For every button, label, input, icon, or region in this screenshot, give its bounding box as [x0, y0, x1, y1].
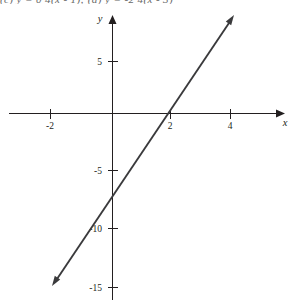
y-axis-arrowhead — [109, 15, 117, 24]
x-axis — [9, 110, 286, 118]
line-segment — [57, 23, 229, 279]
x-axis-label: x — [282, 117, 288, 128]
y-axis — [109, 15, 117, 300]
x-tick-label-4: 4 — [228, 121, 233, 131]
y-tick-label-minus15: -15 — [89, 283, 102, 293]
graph-figure: (c) y = 0 4(x - 1); (d) y = -2 4(x - 3) … — [0, 0, 295, 305]
y-tick-label-minus5: -5 — [94, 166, 102, 176]
line-arrowhead-upper — [226, 15, 234, 25]
y-tick-label-5: 5 — [97, 57, 102, 67]
coordinate-plot: -2 2 4 5 -5 -10 -15 y x — [0, 0, 295, 305]
x-tick-label-2: 2 — [168, 121, 173, 131]
y-axis-label: y — [97, 13, 103, 24]
plotted-line — [52, 15, 234, 286]
x-tick-label-minus2: -2 — [46, 121, 54, 131]
